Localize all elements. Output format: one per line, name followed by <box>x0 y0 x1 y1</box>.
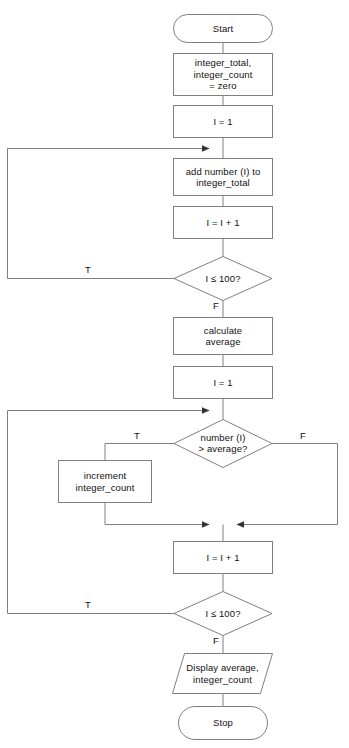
node-inc-i-b-shape <box>174 542 273 574</box>
node-test-gt-avg-shape <box>174 420 272 468</box>
node-set-i-1-a-shape <box>174 106 273 138</box>
flowchart-canvas: Start integer_total, integer_count = zer… <box>0 0 349 748</box>
node-calc-avg-shape <box>174 318 273 355</box>
node-display-shape <box>173 654 273 694</box>
flowchart-graphics <box>0 0 349 748</box>
node-add-number-shape <box>174 159 273 196</box>
node-increment-count-shape <box>59 461 152 503</box>
node-stop-shape <box>179 707 268 740</box>
connector-test-gt-false-to-merge <box>237 444 338 525</box>
connector-increment-to-merge <box>105 503 209 525</box>
node-inc-i-a-shape <box>174 207 273 239</box>
node-test-i-b-shape <box>174 592 272 636</box>
node-init-shape <box>174 54 273 96</box>
node-test-i-a-shape <box>174 257 272 301</box>
connector-test-gt-true-to-increment <box>105 444 174 461</box>
node-set-i-1-b-shape <box>174 367 273 399</box>
node-start-shape <box>174 15 273 43</box>
